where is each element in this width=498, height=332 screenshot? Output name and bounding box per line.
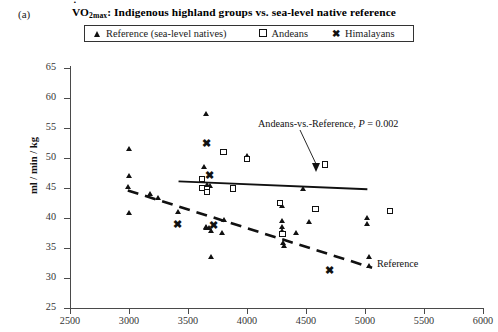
y-tick-label: 50 — [30, 151, 56, 162]
annotation-pvalue-text: Andeans-vs.-Reference, — [258, 118, 358, 129]
data-point-triangle — [244, 153, 250, 158]
data-point-triangle — [175, 209, 181, 214]
data-point-triangle — [126, 210, 132, 215]
data-point-square — [387, 208, 393, 214]
y-tick — [64, 158, 70, 159]
chart-legend: Reference (sea-level natives) Andeans ✖ … — [84, 25, 414, 42]
legend-item-himalayans: ✖ Himalayans — [330, 28, 395, 39]
y-tick — [64, 278, 70, 279]
data-point-triangle — [280, 240, 286, 245]
x-tick — [365, 308, 366, 314]
data-point-triangle — [281, 243, 287, 248]
triangle-icon — [91, 28, 103, 39]
legend-item-reference: Reference (sea-level natives) — [91, 28, 227, 39]
square-icon — [257, 28, 269, 39]
data-point-triangle — [206, 225, 212, 230]
y-tick-label: 45 — [30, 181, 56, 192]
y-tick — [64, 188, 70, 189]
trend-line-andeans — [179, 181, 368, 189]
data-point-square — [277, 200, 283, 206]
legend-item-andeans: Andeans — [257, 28, 308, 39]
data-point-square — [230, 185, 236, 191]
x-tick — [483, 308, 484, 314]
annotation-leader — [300, 130, 317, 166]
data-point-triangle — [366, 263, 372, 268]
x-tick — [424, 308, 425, 314]
x-tick — [129, 308, 130, 314]
y-tick — [64, 128, 70, 129]
data-point-triangle — [364, 221, 370, 226]
y-tick-label: 60 — [30, 91, 56, 102]
data-point-square — [322, 161, 328, 167]
data-point-triangle — [279, 228, 285, 233]
data-point-triangle — [204, 182, 210, 187]
data-point-triangle — [208, 254, 214, 259]
y-tick-label: 30 — [30, 271, 56, 282]
data-point-square — [312, 206, 318, 212]
x-tick-label: 5000 — [342, 315, 388, 326]
y-axis-title: ml / min / kg — [28, 121, 39, 211]
y-tick-label: 65 — [30, 61, 56, 72]
data-point-triangle — [203, 224, 209, 229]
x-tick-label: 6000 — [460, 315, 498, 326]
title-subscript: 2max — [89, 11, 107, 20]
data-point-triangle — [203, 111, 209, 116]
data-point-triangle — [126, 173, 132, 178]
x-tick — [70, 308, 71, 314]
vdot-symbol: VO — [72, 6, 89, 18]
cross-icon: ✖ — [330, 28, 342, 39]
data-point-triangle — [279, 218, 285, 223]
y-tick-label: 55 — [30, 121, 56, 132]
x-tick-label: 4000 — [224, 315, 270, 326]
data-point-triangle — [155, 195, 161, 200]
x-tick-label: 3500 — [165, 315, 211, 326]
data-point-square — [244, 156, 250, 162]
data-point-square — [220, 149, 226, 155]
y-tick-label: 25 — [30, 301, 56, 312]
y-tick — [64, 68, 70, 69]
data-point-triangle — [244, 155, 250, 160]
x-tick-label: 4500 — [283, 315, 329, 326]
legend-label-himalayans: Himalayans — [345, 28, 395, 39]
data-point-triangle — [221, 217, 227, 222]
legend-label-andeans: Andeans — [272, 28, 308, 39]
legend-label-reference: Reference (sea-level natives) — [106, 28, 227, 39]
data-point-triangle — [300, 186, 306, 191]
trend-line-reference — [128, 190, 372, 267]
data-point-square — [204, 186, 210, 192]
annotation-pvalue: Andeans-vs.-Reference, P = 0.002 — [258, 118, 398, 129]
chart-title: VO2max: Indigenous highland groups vs. s… — [72, 6, 472, 20]
annotation-arrowhead — [312, 163, 320, 172]
data-point-triangle — [207, 183, 213, 188]
data-point-square — [199, 185, 205, 191]
y-tick — [64, 248, 70, 249]
annotation-pvalue-value: = 0.002 — [365, 118, 399, 129]
panel-label: (a) — [18, 8, 30, 20]
data-point-square — [279, 231, 285, 237]
data-point-square — [204, 189, 210, 195]
y-tick-label: 35 — [30, 241, 56, 252]
y-tick — [64, 218, 70, 219]
data-point-triangle — [219, 230, 225, 235]
y-tick-label: 40 — [30, 211, 56, 222]
data-point-triangle — [208, 228, 214, 233]
data-point-triangle — [306, 219, 312, 224]
data-point-triangle — [364, 215, 370, 220]
data-point-triangle — [203, 225, 209, 230]
x-axis-line — [70, 308, 483, 309]
data-point-triangle — [279, 203, 285, 208]
annotation-reference-label: Reference — [377, 258, 418, 269]
data-point-triangle — [293, 230, 299, 235]
x-tick-label: 5500 — [401, 315, 447, 326]
data-point-triangle — [147, 191, 153, 196]
data-point-triangle — [279, 224, 285, 229]
title-rest: : Indigenous highland groups vs. sea-lev… — [107, 6, 396, 18]
y-tick — [64, 98, 70, 99]
y-axis-line — [70, 66, 71, 309]
data-point-triangle — [201, 164, 207, 169]
x-tick — [306, 308, 307, 314]
x-tick-label: 2500 — [47, 315, 93, 326]
